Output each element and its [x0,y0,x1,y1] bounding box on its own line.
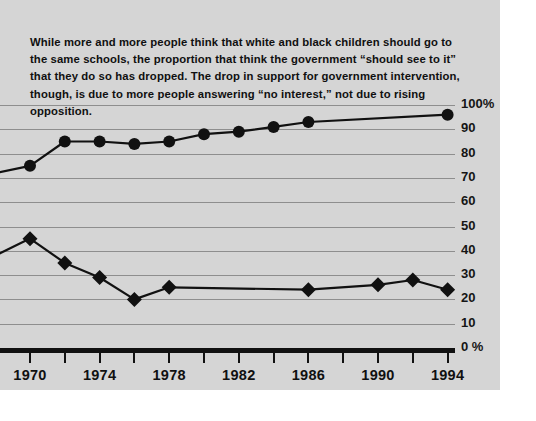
chart-plate: While more and more people think that wh… [0,0,500,390]
data-point-marker [57,255,72,270]
data-point-marker [163,136,175,148]
data-point-marker [94,136,106,148]
data-point-marker [128,138,140,150]
data-point-marker [233,126,245,138]
series-group [0,100,500,390]
data-point-marker [198,128,210,140]
data-point-marker [59,136,71,148]
data-point-marker [268,121,280,133]
plot-area: 0 %102030405060708090100% 19701974197819… [0,100,500,390]
data-point-marker [162,280,177,295]
series-1 [0,231,455,307]
data-point-marker [23,231,38,246]
data-point-marker [371,277,386,292]
data-point-marker [24,160,36,172]
data-point-marker [302,116,314,128]
data-point-marker [442,109,454,121]
data-point-marker [440,282,455,297]
data-point-marker [405,272,420,287]
chart-figure: While more and more people think that wh… [0,0,536,421]
data-point-marker [301,282,316,297]
data-point-marker [127,292,142,307]
series-line [0,239,448,300]
series-0 [0,109,454,173]
data-point-marker [92,270,107,285]
